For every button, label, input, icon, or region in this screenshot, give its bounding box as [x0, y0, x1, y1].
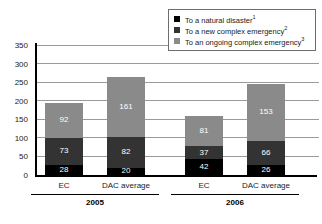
segment-value-label: 161: [107, 103, 145, 111]
segment-value-label: 81: [185, 127, 223, 135]
gridline-350: [37, 45, 170, 46]
y-tick-label-200: 200: [2, 101, 28, 102]
legend-item-natural-disaster: To a natural disaster1: [174, 14, 311, 24]
segment-value-label: 82: [107, 148, 145, 156]
plot-area: 050100150200250300350 927328161822081374…: [35, 45, 317, 175]
segment-value-label: 73: [45, 147, 83, 155]
legend-swatch-new-complex-emergency: [174, 27, 180, 33]
legend-item-new-complex-emergency: To a new complex emergency2: [174, 25, 311, 35]
y-tick-label-0: 0: [2, 175, 28, 176]
bar-2006-dac-average: 1536626: [247, 84, 285, 175]
legend-swatch-ongoing-complex-emergency: [174, 38, 180, 44]
legend-label-new-complex-emergency: To a new complex emergency2: [185, 24, 287, 36]
gridline-300: [37, 63, 319, 64]
legend-footnote-marker: 1: [253, 14, 256, 20]
x-axis-line: [35, 175, 317, 177]
category-label-2005-dac-average: DAC average: [93, 181, 159, 190]
bar-2006-ec: 813742: [185, 116, 223, 175]
group-label-2006: 2006: [171, 198, 299, 207]
y-tick-label-250: 250: [2, 82, 28, 83]
segment-ongoing-complex-emergency: 161: [107, 77, 145, 137]
y-tick-label-350: 350: [2, 45, 28, 46]
bar-2005-dac-average: 1618220: [107, 77, 145, 175]
segment-value-label: 42: [185, 163, 223, 171]
bar-2005-ec: 927328: [45, 103, 83, 175]
segment-new-complex-emergency: 37: [185, 146, 223, 160]
segment-new-complex-emergency: 66: [247, 141, 285, 166]
segment-new-complex-emergency: 82: [107, 137, 145, 167]
category-label-2005-ec: EC: [31, 181, 97, 190]
category-label-2006-dac-average: DAC average: [233, 181, 299, 190]
segment-value-label: 66: [247, 149, 285, 157]
legend-swatch-natural-disaster: [174, 16, 180, 22]
y-tick-label-100: 100: [2, 138, 28, 139]
segment-natural-disaster: 20: [107, 168, 145, 175]
category-label-2006-ec: EC: [171, 181, 237, 190]
chart-page: 050100150200250300350 927328161822081374…: [0, 0, 322, 224]
legend-footnote-marker: 2: [284, 25, 287, 31]
group-rule-2006: [171, 194, 299, 195]
segment-natural-disaster: 28: [45, 165, 83, 175]
segment-value-label: 37: [185, 149, 223, 157]
chart-legend: To a natural disaster1 To a new complex …: [168, 9, 316, 51]
segment-value-label: 28: [45, 166, 83, 174]
legend-label-ongoing-complex-emergency: To an ongoing complex emergency3: [185, 35, 304, 47]
segment-ongoing-complex-emergency: 92: [45, 103, 83, 137]
segment-ongoing-complex-emergency: 153: [247, 84, 285, 141]
y-tick-label-300: 300: [2, 64, 28, 65]
legend-footnote-marker: 3: [301, 36, 304, 42]
group-rule-2005: [31, 194, 159, 195]
segment-value-label: 92: [45, 116, 83, 124]
group-label-2005: 2005: [31, 198, 159, 207]
legend-item-ongoing-complex-emergency: To an ongoing complex emergency3: [174, 36, 311, 46]
segment-value-label: 153: [247, 108, 285, 116]
gridline-250: [37, 82, 319, 83]
segment-value-label: 26: [247, 166, 285, 174]
y-tick-label-50: 50: [2, 156, 28, 157]
legend-label-natural-disaster: To a natural disaster1: [185, 13, 256, 25]
segment-natural-disaster: 26: [247, 165, 285, 175]
segment-natural-disaster: 42: [185, 159, 223, 175]
segment-ongoing-complex-emergency: 81: [185, 116, 223, 146]
y-tick-label-150: 150: [2, 119, 28, 120]
segment-value-label: 20: [107, 167, 145, 175]
segment-new-complex-emergency: 73: [45, 138, 83, 165]
